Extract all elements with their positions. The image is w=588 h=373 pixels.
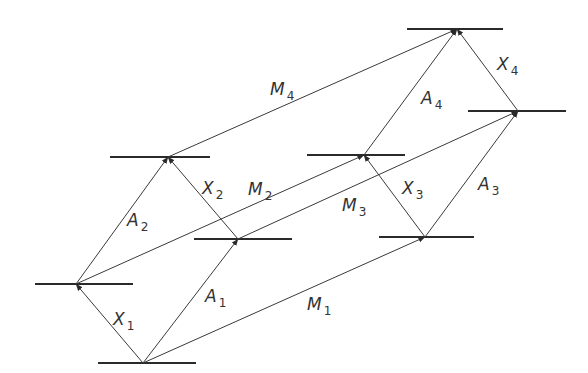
- transition-diagram: X1A1M1A2M2X2M3M4X3A3A4X4: [0, 0, 588, 373]
- transition-label-x2: X2: [201, 178, 223, 202]
- transition-arrow-m3: [238, 111, 518, 239]
- transition-arrow-a2: [76, 157, 168, 284]
- transition-label-x1: X1: [112, 309, 134, 333]
- transition-arrow-a4: [364, 29, 457, 155]
- transition-label-a3: A3: [477, 174, 499, 198]
- transition-label-a1: A1: [204, 286, 226, 310]
- transition-arrow-a3: [425, 111, 518, 237]
- transition-arrow-m2: [76, 155, 364, 284]
- transition-arrow-m1: [143, 237, 425, 363]
- transition-label-m3: M3: [342, 195, 366, 219]
- transition-label-m1: M1: [307, 294, 331, 318]
- transition-arrow-x4: [457, 29, 518, 111]
- transition-label-x3: X3: [401, 178, 423, 202]
- transition-arrows: [76, 29, 518, 363]
- transition-label-x4: X4: [496, 54, 518, 78]
- transition-arrow-m4: [168, 29, 457, 157]
- transition-label-a2: A2: [126, 210, 148, 234]
- transition-label-m4: M4: [270, 79, 294, 103]
- transition-label-a4: A4: [420, 88, 442, 112]
- transition-label-m2: M2: [248, 179, 272, 203]
